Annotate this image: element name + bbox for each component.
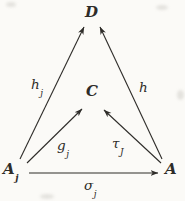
edge-label-tau-J-subscript: J bbox=[120, 147, 124, 157]
node-a-j-base: A bbox=[3, 160, 15, 178]
node-a-j-subscript: j bbox=[15, 173, 18, 183]
node-a: A bbox=[165, 162, 177, 177]
edge-label-g-j-base: g bbox=[57, 137, 66, 153]
node-d: D bbox=[85, 5, 98, 20]
commutative-diagram: D C Aj A hj h gj τJ σj bbox=[0, 0, 185, 201]
arrow-aj-to-c bbox=[27, 109, 82, 163]
edge-label-h-j-subscript: j bbox=[40, 88, 43, 98]
edge-label-h: h bbox=[139, 81, 148, 95]
edge-label-h-j-base: h bbox=[31, 76, 40, 92]
node-c: C bbox=[86, 84, 98, 99]
edge-label-tau-J: τJ bbox=[112, 137, 123, 151]
edge-label-g-j-subscript: j bbox=[66, 149, 69, 159]
edge-label-tau-J-base: τ bbox=[112, 135, 119, 151]
edge-label-sigma-j-base: σ bbox=[84, 177, 93, 193]
edge-label-h-j: hj bbox=[31, 78, 43, 92]
node-a-j: Aj bbox=[3, 162, 18, 177]
diagram-arrows bbox=[0, 0, 185, 201]
arrow-a-to-d bbox=[100, 27, 162, 159]
edge-label-sigma-j: σj bbox=[84, 179, 96, 193]
edge-label-g-j: gj bbox=[57, 139, 68, 153]
edge-label-sigma-j-subscript: j bbox=[94, 189, 97, 199]
